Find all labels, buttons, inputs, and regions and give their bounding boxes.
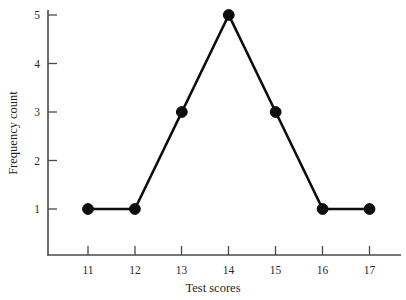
y-tick-label-5: 5 — [34, 9, 40, 21]
data-point-markers — [83, 10, 375, 215]
x-axis-title: Test scores — [185, 281, 240, 295]
data-point-17 — [364, 204, 375, 215]
x-tick-label-12: 12 — [129, 264, 141, 276]
line-chart-plot: 1 2 3 4 5 11 12 13 14 15 16 17 Test scor… — [0, 0, 406, 300]
data-point-13 — [176, 107, 187, 118]
x-tick-marks — [88, 246, 370, 255]
data-point-12 — [130, 204, 141, 215]
x-tick-labels: 11 12 13 14 15 16 17 — [82, 264, 375, 276]
x-tick-label-14: 14 — [223, 264, 235, 276]
y-tick-label-2: 2 — [34, 155, 40, 167]
y-tick-label-1: 1 — [34, 203, 40, 215]
data-point-11 — [83, 204, 94, 215]
y-axis-title: Frequency count — [6, 91, 20, 175]
x-tick-label-13: 13 — [176, 264, 188, 276]
data-point-15 — [270, 107, 281, 118]
x-tick-label-16: 16 — [317, 264, 329, 276]
data-point-14 — [223, 10, 234, 21]
data-point-16 — [317, 204, 328, 215]
y-tick-labels: 1 2 3 4 5 — [34, 9, 40, 215]
data-series-line — [88, 15, 370, 209]
y-tick-label-3: 3 — [34, 106, 40, 118]
y-tick-label-4: 4 — [34, 58, 40, 70]
y-tick-marks — [48, 15, 57, 209]
chart-figure: 1 2 3 4 5 11 12 13 14 15 16 17 Test scor… — [0, 0, 406, 300]
x-tick-label-15: 15 — [270, 264, 282, 276]
x-tick-label-11: 11 — [82, 264, 93, 276]
x-tick-label-17: 17 — [364, 264, 376, 276]
axes-group — [47, 10, 401, 256]
